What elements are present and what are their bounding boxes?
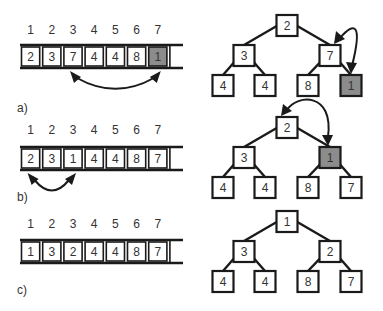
tree-node-value: 4 <box>262 275 269 289</box>
array-index-label: 2 <box>48 217 55 231</box>
tree-node-value: 1 <box>327 151 334 165</box>
array-index-label: 6 <box>133 123 140 137</box>
array-swap-curve <box>77 78 154 89</box>
tree-node-value: 7 <box>327 49 334 63</box>
tree-node-value: 7 <box>348 275 355 289</box>
array-cell-value: 4 <box>112 50 119 64</box>
array-cell-value: 4 <box>91 245 98 259</box>
array-cell-value: 2 <box>70 245 77 259</box>
array-cell-value: 1 <box>27 245 34 259</box>
array-index-label: 4 <box>91 123 98 137</box>
diagram-canvas: 12345672374481a)237448112345672314487b)2… <box>0 0 383 311</box>
tree-node-value: 7 <box>348 181 355 195</box>
tree-swap-curve <box>340 28 357 66</box>
array-index-label: 5 <box>112 217 119 231</box>
tree-node-value: 3 <box>241 49 248 63</box>
tree-node-value: 4 <box>220 275 227 289</box>
tree-edge <box>296 222 330 242</box>
tree-node-value: 4 <box>220 181 227 195</box>
tree-node-value: 3 <box>241 245 248 259</box>
array-index-label: 5 <box>112 123 119 137</box>
array-cell-value: 4 <box>91 50 98 64</box>
array-cell-value: 7 <box>154 152 161 166</box>
array-cell-value: 4 <box>91 152 98 166</box>
tree-node-value: 8 <box>305 181 312 195</box>
arrowhead-icon <box>334 31 345 44</box>
array-index-label: 4 <box>91 23 98 37</box>
array-index-label: 6 <box>133 217 140 231</box>
array-index-label: 4 <box>91 217 98 231</box>
tree-node-value: 1 <box>348 79 355 93</box>
array-cell-value: 1 <box>154 50 161 64</box>
array-index-label: 2 <box>48 23 55 37</box>
array-swap-curve <box>35 180 69 191</box>
array-cell-value: 2 <box>27 152 34 166</box>
tree-edge <box>244 26 278 46</box>
array-cell-value: 3 <box>48 152 55 166</box>
array-index-label: 7 <box>154 123 161 137</box>
array-cell-value: 4 <box>112 152 119 166</box>
panel-label: b) <box>17 190 28 204</box>
array-index-label: 5 <box>112 23 119 37</box>
tree-edge <box>296 26 330 46</box>
array-cell-value: 2 <box>27 50 34 64</box>
array-index-label: 3 <box>70 217 77 231</box>
array-index-label: 1 <box>27 217 34 231</box>
array-cell-value: 1 <box>70 152 77 166</box>
tree-node-value: 2 <box>284 121 291 135</box>
heap-sift-up-diagram: 12345672374481a)237448112345672314487b)2… <box>0 0 383 311</box>
array-index-label: 3 <box>70 23 77 37</box>
array-index-label: 7 <box>154 23 161 37</box>
arrowhead-icon <box>150 71 161 83</box>
panel-label: a) <box>17 101 28 115</box>
array-index-label: 3 <box>70 123 77 137</box>
array-index-label: 7 <box>154 217 161 231</box>
array-cell-value: 8 <box>133 152 140 166</box>
array-index-label: 6 <box>133 23 140 37</box>
tree-node-value: 3 <box>241 151 248 165</box>
array-cell-value: 8 <box>133 50 140 64</box>
array-cell-value: 3 <box>48 50 55 64</box>
tree-edge <box>244 128 278 148</box>
array-cell-value: 4 <box>112 245 119 259</box>
panel-b: 12345672314487b)2314487 <box>17 100 362 204</box>
tree-node-value: 8 <box>305 79 312 93</box>
array-index-label: 1 <box>27 123 34 137</box>
array-cell-value: 7 <box>154 245 161 259</box>
tree-node-value: 4 <box>262 79 269 93</box>
tree-node-value: 2 <box>284 19 291 33</box>
array-cell-value: 8 <box>133 245 140 259</box>
tree-edge <box>244 222 278 242</box>
array-index-label: 2 <box>48 123 55 137</box>
tree-node-value: 8 <box>305 275 312 289</box>
tree-node-value: 4 <box>262 181 269 195</box>
tree-node-value: 2 <box>327 245 334 259</box>
arrowhead-icon <box>70 71 81 83</box>
panel-label: c) <box>17 283 27 297</box>
tree-node-value: 1 <box>284 215 291 229</box>
tree-node-value: 4 <box>220 79 227 93</box>
panel-c: 12345671324487c)1324487 <box>17 211 362 297</box>
array-cell-value: 3 <box>48 245 55 259</box>
array-cell-value: 7 <box>70 50 77 64</box>
array-index-label: 1 <box>27 23 34 37</box>
